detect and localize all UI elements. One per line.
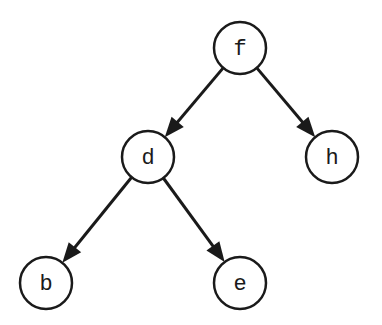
edge-d-e bbox=[163, 178, 217, 252]
node-b: b bbox=[20, 257, 72, 309]
node-label: h bbox=[325, 146, 338, 171]
edge-f-h bbox=[257, 68, 308, 128]
node-e: e bbox=[214, 257, 266, 309]
node-label: e bbox=[233, 272, 246, 297]
node-label: b bbox=[39, 272, 52, 297]
nodes: fdhbe bbox=[20, 22, 358, 309]
node-label: f bbox=[233, 37, 246, 62]
tree-diagram: fdhbe bbox=[0, 0, 382, 325]
node-d: d bbox=[122, 131, 174, 183]
edges bbox=[62, 68, 315, 263]
node-f: f bbox=[214, 22, 266, 74]
node-h: h bbox=[306, 131, 358, 183]
edge-d-b bbox=[70, 177, 132, 253]
edge-f-d bbox=[173, 68, 224, 128]
node-label: d bbox=[141, 146, 154, 171]
arrowhead-icon bbox=[206, 241, 224, 262]
